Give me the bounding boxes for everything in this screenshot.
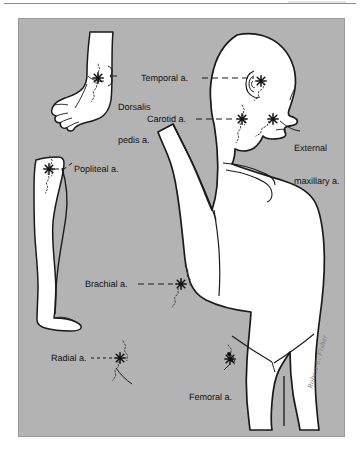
label-carotid: Carotid a. — [147, 114, 186, 125]
label-external-maxillary: External maxillary a. — [294, 121, 339, 209]
page-canvas: Robert E. Fisher Dorsalis pedis a. Tempo… — [0, 0, 363, 450]
label-popliteal: Popliteal a. — [74, 164, 118, 175]
label-dorsalis-pedis: Dorsalis pedis a. — [118, 80, 150, 168]
page-top-rule-faint — [288, 1, 346, 3]
label-dorsalis-pedis-line1: Dorsalis — [118, 102, 150, 113]
label-dorsalis-pedis-line2: pedis a. — [118, 135, 150, 146]
label-temporal: Temporal a. — [141, 73, 188, 84]
illustration-plate: Robert E. Fisher Dorsalis pedis a. Tempo… — [18, 18, 345, 437]
label-external-maxillary-line2: maxillary a. — [294, 176, 339, 187]
page-top-rule — [4, 3, 356, 4]
label-external-maxillary-line1: External — [294, 143, 339, 154]
label-brachial: Brachial a. — [85, 279, 127, 290]
label-radial: Radial a. — [51, 353, 86, 364]
label-femoral: Femoral a. — [189, 392, 232, 403]
